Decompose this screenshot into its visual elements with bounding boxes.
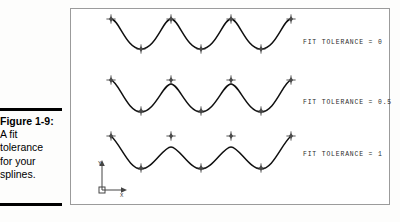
figure-caption: Figure 1-9: A fit tolerance for your spl… <box>0 108 64 181</box>
ucs-icon <box>99 160 127 193</box>
spline-tolerance-0 <box>106 14 295 53</box>
label-fit-tolerance-1: FIT TOLERANCE = 1 <box>303 151 383 158</box>
spline-tolerance-05 <box>106 75 295 115</box>
caption-line-4: splines. <box>0 168 64 181</box>
caption-text: Figure 1-9: A fit tolerance for your spl… <box>0 111 64 181</box>
label-fit-tolerance-0: FIT TOLERANCE = 0 <box>303 39 383 46</box>
ucs-y-label: Y <box>98 160 101 167</box>
caption-line-3: for your <box>0 155 64 168</box>
spline-tolerance-1 <box>106 131 295 172</box>
label-fit-tolerance-05: FIT TOLERANCE = 0.5 <box>303 99 392 106</box>
caption-line-2: tolerance <box>0 141 64 154</box>
caption-number: Figure 1-9: <box>0 115 64 128</box>
drawing-canvas: FIT TOLERANCE = 0 FIT TOLERANCE = 0.5 FI… <box>70 8 390 205</box>
ucs-x-label: X <box>120 192 123 199</box>
caption-line-1: A fit <box>0 128 64 141</box>
caption-rule-bottom <box>0 203 62 206</box>
figure-page: Figure 1-9: A fit tolerance for your spl… <box>0 0 400 222</box>
